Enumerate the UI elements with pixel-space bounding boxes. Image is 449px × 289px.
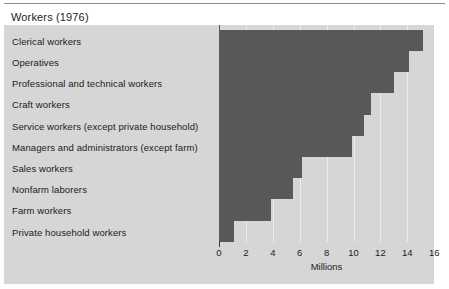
x-tick-label: 16: [422, 247, 446, 258]
x-axis-title: Millions: [219, 261, 434, 272]
bar: [219, 221, 234, 242]
title-band: Workers (1976): [0, 4, 449, 25]
category-label-column: Clerical workersOperativesProfessional a…: [4, 25, 219, 284]
bar: [219, 51, 409, 72]
bar: [219, 72, 394, 93]
bar: [219, 157, 302, 178]
plot-area: [219, 25, 434, 284]
category-label: Craft workers: [12, 99, 70, 110]
x-tick-label: 6: [288, 247, 312, 258]
category-label: Operatives: [12, 57, 59, 68]
x-tick-label: 8: [315, 247, 339, 258]
bar: [219, 178, 293, 199]
x-tick-label: 0: [207, 247, 231, 258]
x-tick-label: 10: [342, 247, 366, 258]
bar: [219, 115, 364, 136]
bar: [219, 93, 371, 114]
y-axis-line: [219, 25, 220, 242]
category-label: Farm workers: [12, 205, 71, 216]
chart-title: Workers (1976): [11, 11, 89, 23]
x-tick-label: 4: [261, 247, 285, 258]
bar: [219, 30, 423, 51]
category-label: Private household workers: [12, 227, 126, 238]
x-tick-label: 12: [368, 247, 392, 258]
bar: [219, 199, 271, 220]
category-label: Professional and technical workers: [12, 78, 162, 89]
category-label: Clerical workers: [12, 36, 81, 47]
category-label: Sales workers: [12, 163, 73, 174]
category-label: Managers and administrators (except farm…: [12, 142, 198, 153]
bar: [219, 136, 352, 157]
category-label: Nonfarm laborers: [12, 184, 87, 195]
chart-figure: Workers (1976) Clerical workersOperative…: [0, 0, 449, 289]
x-tick-label: 2: [234, 247, 258, 258]
category-label: Service workers (except private househol…: [12, 121, 198, 132]
x-tick-label: 14: [395, 247, 419, 258]
plot-panel: Clerical workersOperativesProfessional a…: [4, 25, 434, 284]
